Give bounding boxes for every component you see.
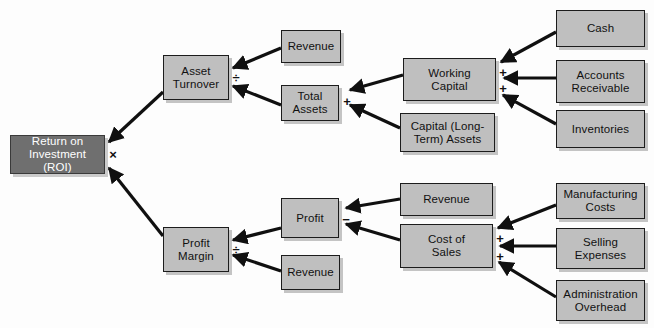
edge-cost_sales-to-profit bbox=[346, 224, 400, 240]
node-label-revenue_2: Revenue bbox=[284, 266, 337, 279]
edge-working_cap-to-total_assets bbox=[350, 75, 403, 90]
edge-total_assets-to-asset_turn bbox=[233, 86, 281, 105]
node-label-profit: Profit bbox=[293, 212, 326, 225]
operator-plus-op_wc_1: + bbox=[497, 66, 509, 79]
operator-plus-op_ta: + bbox=[341, 95, 353, 108]
node-cost_sales[interactable]: Cost of Sales bbox=[400, 224, 493, 268]
node-label-mfg_costs: Manufacturing Costs bbox=[560, 188, 640, 214]
node-inventories[interactable]: Inventories bbox=[556, 110, 645, 148]
node-profit[interactable]: Profit bbox=[281, 198, 339, 238]
edge-revenue_2-to-profit_marg bbox=[233, 255, 281, 271]
node-ar[interactable]: Accounts Receivable bbox=[556, 60, 645, 103]
node-total_assets[interactable]: Total Assets bbox=[281, 85, 339, 121]
edge-revenue_3-to-profit bbox=[346, 199, 400, 208]
node-label-asset_turn: Asset Turnover bbox=[170, 65, 222, 91]
roi-tree-diagram: Return on Investment (ROI)Asset Turnover… bbox=[0, 0, 654, 328]
edge-profit_marg-to-roi bbox=[109, 168, 163, 236]
edge-cash-to-working_cap bbox=[501, 32, 556, 62]
edge-admin_over-to-cost_sales bbox=[499, 262, 556, 297]
operator-divide-op_pm: ÷ bbox=[230, 243, 242, 256]
operator-plus-op_cos_1: + bbox=[494, 232, 506, 245]
node-label-inventories: Inventories bbox=[569, 123, 632, 136]
node-label-cost_sales: Cost of Sales bbox=[425, 233, 468, 259]
edge-profit-to-profit_marg bbox=[233, 228, 281, 240]
operator-divide-op_at: ÷ bbox=[230, 71, 242, 84]
node-label-roi: Return on Investment (ROI) bbox=[11, 135, 104, 174]
node-label-admin_over: Administration Overhead bbox=[560, 288, 640, 314]
node-label-revenue_3: Revenue bbox=[420, 193, 473, 206]
operator-multiply-op_roi: × bbox=[107, 148, 119, 161]
edge-inventories-to-working_cap bbox=[503, 95, 556, 124]
node-profit_marg[interactable]: Profit Margin bbox=[163, 227, 229, 272]
node-label-revenue_1: Revenue bbox=[285, 40, 338, 53]
node-working_cap[interactable]: Working Capital bbox=[403, 58, 496, 101]
node-label-capital_lt: Capital (Long- Term) Assets bbox=[408, 120, 488, 146]
node-roi[interactable]: Return on Investment (ROI) bbox=[10, 135, 105, 174]
edge-mfg_costs-to-cost_sales bbox=[498, 205, 556, 228]
operator-plus-op_cos_2: + bbox=[494, 250, 506, 263]
node-admin_over[interactable]: Administration Overhead bbox=[556, 280, 645, 321]
node-revenue_2[interactable]: Revenue bbox=[281, 255, 340, 290]
node-label-total_assets: Total Assets bbox=[289, 90, 330, 116]
node-cash[interactable]: Cash bbox=[556, 10, 645, 47]
node-asset_turn[interactable]: Asset Turnover bbox=[163, 55, 229, 100]
edge-asset_turn-to-roi bbox=[109, 92, 163, 142]
node-label-selling_exp: Selling Expenses bbox=[572, 236, 629, 262]
node-label-profit_marg: Profit Margin bbox=[175, 237, 217, 263]
edge-capital_lt-to-total_assets bbox=[350, 105, 400, 128]
operator-plus-op_wc_2: + bbox=[497, 82, 509, 95]
node-capital_lt[interactable]: Capital (Long- Term) Assets bbox=[400, 113, 495, 152]
node-mfg_costs[interactable]: Manufacturing Costs bbox=[556, 183, 645, 219]
node-label-cash: Cash bbox=[584, 22, 617, 35]
node-selling_exp[interactable]: Selling Expenses bbox=[556, 228, 645, 269]
edge-revenue_1-to-asset_turn bbox=[233, 48, 281, 68]
node-label-working_cap: Working Capital bbox=[425, 67, 474, 93]
node-revenue_3[interactable]: Revenue bbox=[400, 183, 493, 216]
node-label-ar: Accounts Receivable bbox=[569, 69, 633, 95]
operator-minus-op_profit: − bbox=[340, 213, 352, 226]
node-revenue_1[interactable]: Revenue bbox=[281, 30, 341, 63]
